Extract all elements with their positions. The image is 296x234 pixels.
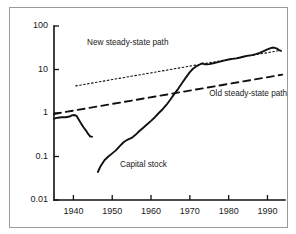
x-axis-tick-label: 1990 <box>247 207 287 216</box>
y-axis-tick-label: 100 <box>33 21 48 30</box>
series-line <box>98 48 281 172</box>
series-line <box>54 115 92 137</box>
y-axis-tick-label: 0.01 <box>30 195 48 204</box>
x-axis-tick-label: 1940 <box>53 207 93 216</box>
capital-stock-label: Capital stock <box>120 161 167 169</box>
x-axis-tick-label: 1980 <box>209 207 249 216</box>
y-axis-tick-label: 1 <box>43 108 48 117</box>
x-axis-tick-label: 1970 <box>170 207 210 216</box>
y-axis-tick-label: 0.1 <box>35 152 48 161</box>
chart-figure: 1001010.10.01 194019501960197019801990 N… <box>0 0 296 234</box>
new-steady-state-path-label: New steady-state path <box>87 39 168 47</box>
x-axis-tick-label: 1950 <box>92 207 132 216</box>
y-axis-tick-label: 10 <box>38 65 48 74</box>
old-steady-state-path-label: Old steady-state path <box>209 90 287 98</box>
chart-frame: 1001010.10.01 194019501960197019801990 N… <box>9 7 288 228</box>
x-axis-tick-label: 1960 <box>131 207 171 216</box>
chart-axes <box>54 26 285 200</box>
chart-series <box>54 48 282 172</box>
